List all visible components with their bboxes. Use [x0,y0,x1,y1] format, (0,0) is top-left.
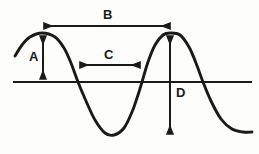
peak-to-peak-label: D [176,86,185,99]
amplitude-label: A [29,50,38,63]
half-wavelength-label: C [104,48,113,61]
wave-diagram: A B C D [0,0,259,154]
wave-curve [15,33,252,135]
wave-diagram-canvas [0,0,259,154]
wavelength-label: B [103,8,112,21]
